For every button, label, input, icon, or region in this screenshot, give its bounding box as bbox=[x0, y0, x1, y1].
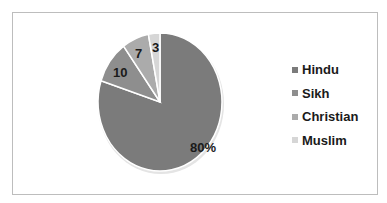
slice-label-christian: 7 bbox=[135, 46, 142, 61]
slice-label-hindu: 80% bbox=[190, 140, 216, 155]
legend-label: Christian bbox=[302, 109, 358, 124]
legend-item-hindu: Hindu bbox=[292, 58, 358, 82]
legend-swatch-icon bbox=[292, 114, 298, 120]
legend-label: Muslim bbox=[302, 133, 347, 148]
legend-swatch-icon bbox=[292, 90, 298, 96]
slice-label-sikh: 10 bbox=[113, 65, 127, 80]
slice-label-muslim: 3 bbox=[152, 40, 159, 55]
legend-label: Hindu bbox=[302, 62, 339, 77]
legend-item-sikh: Sikh bbox=[292, 82, 358, 106]
chart-legend: Hindu Sikh Christian Muslim bbox=[292, 58, 358, 152]
legend-item-muslim: Muslim bbox=[292, 129, 358, 153]
legend-item-christian: Christian bbox=[292, 105, 358, 129]
legend-label: Sikh bbox=[302, 86, 329, 101]
legend-swatch-icon bbox=[292, 67, 298, 73]
legend-swatch-icon bbox=[292, 137, 298, 143]
